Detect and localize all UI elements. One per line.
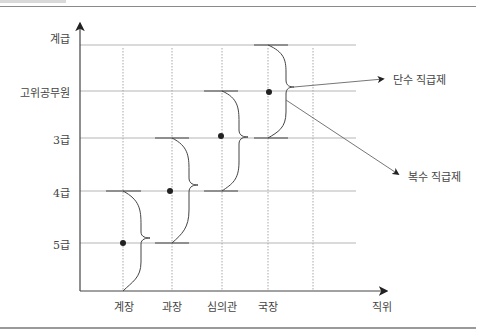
y-level-grade5: 5급 — [0, 236, 70, 252]
y-level-grade4: 4급 — [0, 184, 70, 200]
vertical-grid — [123, 48, 313, 290]
x-position-bureau-director: 국장 — [258, 298, 278, 314]
y-level-grade3: 3급 — [0, 131, 70, 147]
annotation-single-grade: 단수 직급제 — [393, 71, 447, 87]
x-position-team-lead: 계장 — [114, 298, 134, 314]
y-level-senior: 고위공무원 — [0, 84, 70, 100]
annotation-multiple-grade: 복수 직급제 — [408, 168, 462, 184]
y-axis-label: 계급 — [0, 30, 70, 46]
grade-position-diagram — [0, 0, 482, 330]
horizontal-grid — [80, 45, 356, 243]
annotation-arrows — [286, 79, 398, 174]
axes — [80, 24, 386, 291]
position-dots — [120, 89, 272, 246]
x-axis-label: 직위 — [372, 298, 392, 314]
range-ticks — [106, 45, 288, 243]
x-position-division-head: 과장 — [162, 298, 182, 314]
x-position-councilor: 심의관 — [207, 298, 237, 314]
